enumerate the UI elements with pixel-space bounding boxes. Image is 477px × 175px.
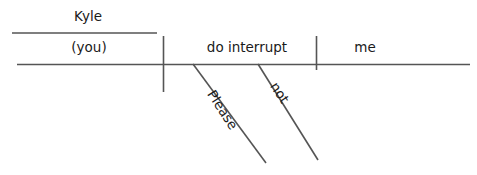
sentence-diagram: Kyle (you) do interrupt me Please not — [0, 0, 477, 175]
label-subject-modifier: Kyle — [74, 10, 102, 24]
label-subject: (you) — [71, 41, 106, 55]
label-object: me — [354, 41, 375, 55]
label-predicate: do interrupt — [207, 41, 287, 55]
diagram-canvas — [0, 0, 477, 175]
modifier-slant-two — [258, 64, 318, 160]
